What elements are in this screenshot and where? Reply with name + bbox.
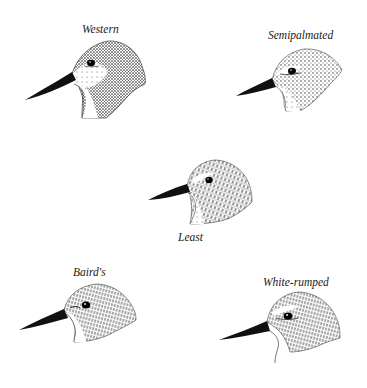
label-bairds: Baird's	[73, 267, 106, 279]
least-eye	[205, 177, 212, 183]
white-rumped-neck-line	[268, 330, 279, 363]
white-rumped-bill	[219, 321, 270, 340]
label-white-rumped: White-rumped	[263, 277, 329, 289]
sandpiper-plate: Western Semipalmated Least Baird's White…	[0, 0, 367, 388]
western-bill	[25, 72, 76, 100]
least-bill	[148, 184, 190, 200]
bairds-bill	[19, 309, 68, 330]
western-eye	[87, 60, 95, 67]
semipalmated-eye	[288, 68, 296, 74]
least-head	[148, 160, 252, 224]
bairds-eye	[82, 301, 90, 308]
bairds-head	[19, 284, 136, 342]
label-least: Least	[178, 232, 203, 244]
label-western: Western	[82, 24, 119, 36]
white-rumped-head	[219, 292, 340, 363]
white-rumped-crown	[267, 292, 340, 352]
bird-illustrations	[0, 0, 367, 388]
white-rumped-eye	[284, 313, 293, 320]
semipalmated-head	[236, 49, 342, 111]
semipalmated-bill	[236, 78, 276, 96]
bairds-crown	[64, 284, 136, 342]
label-semipalmated: Semipalmated	[268, 30, 333, 42]
semipalmated-crown	[272, 49, 342, 111]
western-head	[25, 41, 145, 118]
